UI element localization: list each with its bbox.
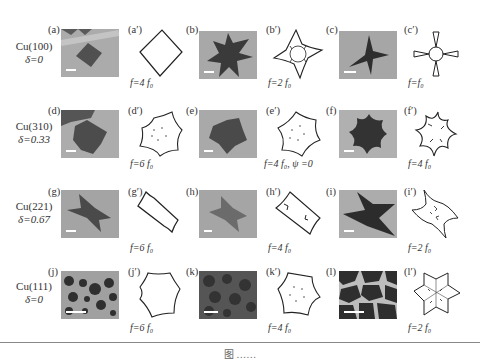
panel-label-c: (c) bbox=[326, 24, 338, 35]
micrograph-e bbox=[199, 110, 257, 158]
outline-b-prime bbox=[270, 28, 326, 80]
outline-a-prime bbox=[132, 28, 188, 80]
micrograph-l bbox=[339, 271, 397, 319]
micrograph-a bbox=[61, 29, 119, 77]
panel-label-d: (d) bbox=[48, 105, 60, 116]
outline-i-prime bbox=[408, 188, 464, 240]
scale-bar bbox=[66, 69, 76, 71]
scale-bar bbox=[204, 311, 218, 313]
f-label-d-prime: f=6 f₀ bbox=[130, 158, 153, 169]
f-label-a-prime: f=4 f₀ bbox=[130, 77, 153, 88]
outline-e-prime bbox=[270, 108, 326, 160]
outline-k-prime bbox=[270, 269, 326, 321]
f-label-i-prime: f=2 f₀ bbox=[408, 242, 431, 253]
outline-f-prime bbox=[408, 108, 464, 160]
panel-label-i: (i) bbox=[326, 186, 336, 197]
scale-bar bbox=[66, 230, 76, 232]
panel-label-g: (g) bbox=[48, 186, 60, 197]
row-label-cu310: Cu(310) δ=0.33 bbox=[8, 120, 60, 146]
material-label: Cu(221) bbox=[8, 200, 60, 213]
delta-label: δ=0 bbox=[8, 293, 60, 306]
scale-bar bbox=[66, 311, 86, 313]
delta-label: δ=0.67 bbox=[8, 213, 60, 226]
f-label-b-prime: f=2 f₀ bbox=[268, 77, 291, 88]
micrograph-g bbox=[61, 190, 119, 238]
row-label-cu100: Cu(100) δ=0 bbox=[8, 40, 60, 66]
f-label-e-prime: f=4 f₀, ψ =0 bbox=[264, 158, 313, 169]
f-label-h-prime: f=4 f₀ bbox=[268, 242, 291, 253]
scale-bar bbox=[204, 150, 213, 152]
micrograph-f bbox=[339, 110, 397, 158]
outline-c-prime bbox=[408, 28, 464, 80]
scale-bar bbox=[66, 150, 76, 152]
scale-bar bbox=[204, 230, 212, 232]
micrograph-j bbox=[61, 271, 119, 319]
f-label-c-prime: f=f₀ bbox=[408, 77, 424, 88]
micrograph-d bbox=[61, 110, 119, 158]
material-label: Cu(310) bbox=[8, 120, 60, 133]
micrograph-b bbox=[199, 31, 257, 79]
outline-j-prime bbox=[132, 269, 188, 321]
delta-label: δ=0.33 bbox=[8, 133, 60, 146]
outline-d-prime bbox=[132, 108, 188, 160]
panel-label-l: (l) bbox=[326, 266, 336, 277]
scale-bar bbox=[204, 71, 214, 73]
material-label: Cu(100) bbox=[8, 40, 60, 53]
scale-bar bbox=[344, 150, 354, 152]
panel-label-f: (f) bbox=[326, 105, 337, 116]
f-label-j-prime: f=6 f₀ bbox=[130, 322, 153, 333]
f-label-k-prime: f=4 f₀ bbox=[268, 322, 291, 333]
outline-l-prime bbox=[408, 269, 464, 321]
scale-bar bbox=[344, 230, 354, 232]
f-label-l-prime: f=2 f₀ bbox=[408, 322, 431, 333]
scale-bar bbox=[344, 311, 364, 313]
outline-g-prime bbox=[132, 188, 188, 240]
caption-divider bbox=[0, 342, 480, 343]
micrograph-k bbox=[199, 271, 257, 319]
panel-label-e: (e) bbox=[186, 105, 198, 116]
row-label-cu221: Cu(221) δ=0.67 bbox=[8, 200, 60, 226]
material-label: Cu(111) bbox=[8, 280, 60, 293]
scale-bar bbox=[344, 71, 356, 73]
figure-caption: 图 …… bbox=[0, 346, 480, 361]
panel-label-h: (h) bbox=[186, 186, 198, 197]
micrograph-i bbox=[339, 190, 397, 238]
f-label-f-prime: f=4 f₀ bbox=[408, 158, 431, 169]
row-label-cu111: Cu(111) δ=0 bbox=[8, 280, 60, 306]
panel-label-a: (a) bbox=[48, 24, 60, 35]
panel-label-k: (k) bbox=[186, 266, 198, 277]
micrograph-h bbox=[199, 190, 257, 238]
f-label-g-prime: f=6 f₀ bbox=[130, 242, 153, 253]
micrograph-c bbox=[339, 31, 397, 79]
panel-label-j: (j) bbox=[48, 266, 58, 277]
outline-h-prime bbox=[270, 188, 326, 240]
panel-label-b: (b) bbox=[186, 24, 198, 35]
delta-label: δ=0 bbox=[8, 53, 60, 66]
